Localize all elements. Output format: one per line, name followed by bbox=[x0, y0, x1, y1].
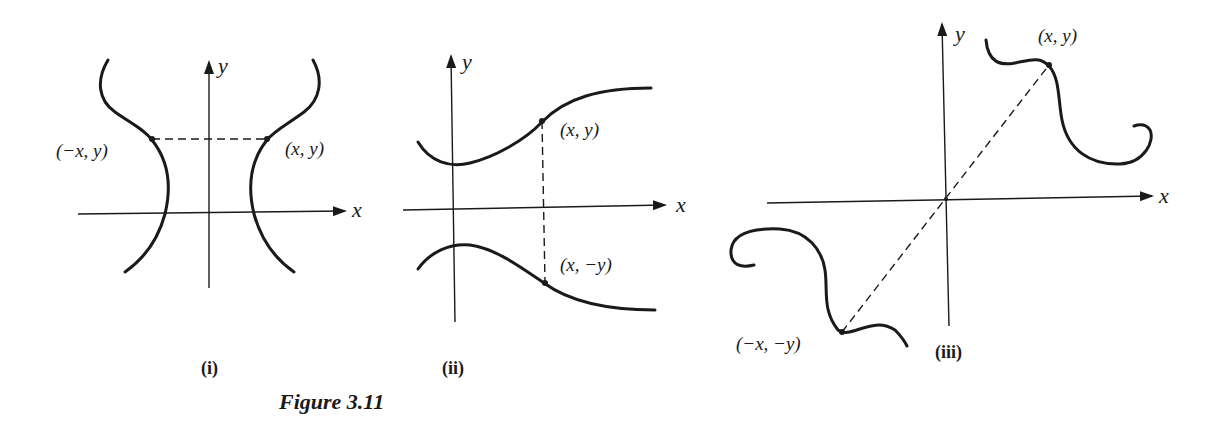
panel-label-i: (i) bbox=[201, 358, 218, 379]
y-axis-label: y bbox=[460, 49, 472, 74]
panel-ii: x y (x, y) (x, −y) (ii) bbox=[403, 49, 686, 379]
upper-right-curve bbox=[986, 40, 1151, 164]
y-axis-label: y bbox=[953, 21, 965, 46]
right-point-dot bbox=[264, 136, 270, 142]
right-point-label: (x, y) bbox=[285, 138, 324, 160]
right-curve bbox=[251, 60, 320, 272]
x-axis bbox=[403, 205, 665, 210]
panel-iii: x y (x, y) (−x, −y) (iii) bbox=[731, 21, 1169, 363]
upper-right-point-label: (x, y) bbox=[1038, 25, 1077, 47]
lower-left-curve bbox=[731, 229, 907, 346]
panel-label-iii: (iii) bbox=[935, 342, 962, 363]
y-axis bbox=[451, 56, 455, 322]
y-axis bbox=[942, 24, 949, 326]
upper-point-dot bbox=[539, 118, 545, 124]
x-axis bbox=[78, 211, 345, 214]
figure-caption: Figure 3.11 bbox=[278, 389, 384, 414]
origin-dot bbox=[944, 197, 948, 201]
panel-i: x y (−x, y) (x, y) (i) bbox=[56, 53, 362, 379]
left-curve bbox=[100, 60, 168, 272]
lower-point-label: (x, −y) bbox=[560, 254, 612, 276]
vertical-dash bbox=[542, 121, 545, 283]
upper-point-label: (x, y) bbox=[560, 119, 599, 141]
lower-point-dot bbox=[542, 280, 548, 286]
lower-left-point-dot bbox=[839, 329, 845, 335]
lower-left-point-label: (−x, −y) bbox=[736, 333, 801, 355]
x-axis-label: x bbox=[1158, 183, 1169, 208]
y-axis-label: y bbox=[216, 53, 228, 78]
upper-right-point-dot bbox=[1046, 62, 1052, 68]
left-point-dot bbox=[149, 136, 155, 142]
x-axis bbox=[767, 196, 1152, 203]
left-point-label: (−x, y) bbox=[56, 140, 108, 162]
x-axis-label: x bbox=[675, 192, 686, 217]
x-axis-label: x bbox=[351, 197, 362, 222]
figure-canvas: x y (−x, y) (x, y) (i) x y (x, y) (x, −y… bbox=[0, 0, 1223, 426]
panel-label-ii: (ii) bbox=[442, 358, 464, 379]
